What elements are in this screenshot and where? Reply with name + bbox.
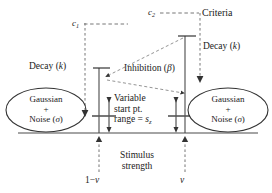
gaussian-right-line3: Noise (σ) bbox=[192, 115, 264, 125]
inhibition-text: Inhibition ( bbox=[124, 63, 167, 73]
drift-left-prefix: 1− bbox=[85, 175, 95, 185]
gaussian-noise-label-left: Gaussian + Noise (σ) bbox=[10, 95, 82, 125]
drift-arrowhead-left bbox=[96, 136, 102, 142]
stimulus-line1: Stimulus bbox=[106, 150, 168, 161]
gaussian-right-noise-prefix: Noise ( bbox=[211, 114, 237, 124]
criterion-c1-subscript: 1 bbox=[76, 23, 79, 29]
drift-arrowhead-right bbox=[182, 136, 188, 142]
drift-label-right: v bbox=[180, 175, 184, 186]
criterion-c2-subscript: 2 bbox=[152, 12, 155, 18]
decay-arrow-right bbox=[197, 76, 204, 83]
decay-left-text: Decay ( bbox=[29, 61, 59, 71]
drift-right-var: v bbox=[180, 175, 184, 185]
gaussian-left-noise-prefix: Noise ( bbox=[29, 114, 55, 124]
decay-right-text: Decay ( bbox=[203, 41, 233, 51]
decay-label-left: Decay (k) bbox=[29, 61, 66, 72]
inhibition-label: Inhibition (β) bbox=[124, 63, 175, 74]
criteria-title-label: Criteria bbox=[202, 7, 233, 18]
start-point-line2: start pt. bbox=[114, 104, 176, 115]
criterion-label-c1: c1 bbox=[72, 18, 79, 30]
gaussian-right-close: ) bbox=[242, 114, 245, 124]
inhibition-link-left-to-right bbox=[107, 80, 183, 93]
inhibition-close: ) bbox=[172, 63, 175, 73]
stimulus-strength-label: Stimulus strength bbox=[106, 150, 168, 171]
start-point-range-subscript: z bbox=[149, 118, 152, 125]
gaussian-left-line3: Noise (σ) bbox=[10, 115, 82, 125]
decay-right-close: ) bbox=[237, 41, 240, 51]
decay-label-right: Decay (k) bbox=[203, 41, 240, 52]
start-point-line1: Variable bbox=[114, 93, 176, 104]
diagram-canvas: c1 c2 Criteria Decay (k) Decay (k) Inhib… bbox=[0, 0, 272, 193]
start-point-range-label: Variable start pt. range = sz bbox=[114, 93, 176, 125]
gaussian-left-close: ) bbox=[60, 114, 63, 124]
decay-left-close: ) bbox=[63, 61, 66, 71]
stimulus-line2: strength bbox=[106, 161, 168, 172]
criterion-label-c2: c2 bbox=[148, 7, 155, 19]
gaussian-noise-label-right: Gaussian + Noise (σ) bbox=[192, 95, 264, 125]
start-point-line3: range = sz bbox=[114, 114, 176, 125]
start-point-range-prefix: range = bbox=[114, 114, 145, 124]
drift-left-var: v bbox=[95, 175, 99, 185]
drift-label-left: 1−v bbox=[85, 175, 99, 186]
